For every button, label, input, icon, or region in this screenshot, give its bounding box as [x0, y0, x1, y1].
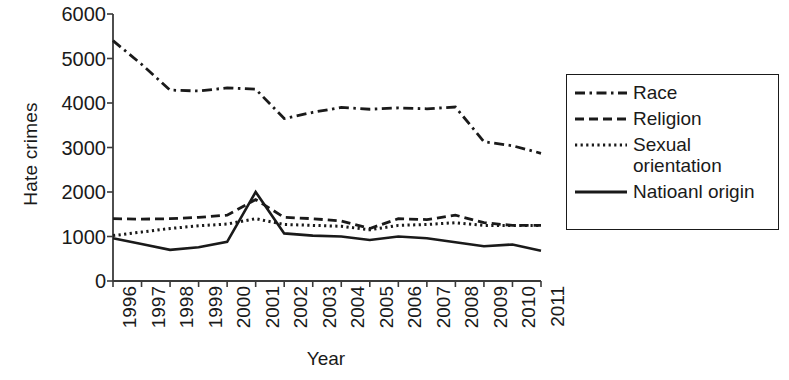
legend-item: Sexual orientation: [575, 134, 772, 176]
legend-item: Race: [575, 82, 772, 103]
legend-label: Sexual orientation: [633, 134, 722, 176]
legend-swatch-dashdot: [575, 82, 627, 103]
y-tick-label: 5000: [42, 49, 106, 69]
legend-label: Religion: [633, 108, 702, 129]
x-tick-label: 2006: [405, 286, 424, 328]
y-axis-tick-labels: 0100020003000400050006000: [40, 0, 106, 380]
x-tick-label: 2004: [348, 286, 367, 328]
legend-label: Natioanl origin: [633, 181, 754, 202]
chart-figure: Hate crimes 0100020003000400050006000 19…: [0, 0, 789, 380]
series-line-religion: [113, 200, 541, 229]
axis-lines: [113, 14, 541, 281]
legend-swatch-solid: [575, 181, 627, 202]
y-tick-label: 1000: [42, 227, 106, 247]
x-tick-label: 1998: [177, 286, 196, 328]
x-tick-label: 2003: [320, 286, 339, 328]
x-tick-label: 1997: [149, 286, 168, 328]
legend-item: Natioanl origin: [575, 181, 772, 202]
x-tick-label: 1996: [120, 286, 139, 328]
legend-swatch-dotted: [575, 134, 627, 155]
x-tick-label: 2001: [263, 286, 282, 328]
series-line-sexual-orientation: [113, 219, 541, 236]
x-tick-label: 2010: [519, 286, 538, 328]
series-line-race: [113, 41, 541, 154]
legend-swatch-dashed: [575, 108, 627, 129]
y-axis-title: Hate crimes: [20, 79, 42, 229]
y-tick-label: 6000: [42, 4, 106, 24]
y-tick-label: 3000: [42, 138, 106, 158]
x-tick-label: 2000: [234, 286, 253, 328]
series-canvas: [106, 14, 546, 284]
x-axis-title: Year: [106, 348, 546, 370]
x-tick-label: 2011: [548, 286, 567, 327]
x-tick-label: 2002: [291, 286, 310, 328]
x-tick-label: 2008: [462, 286, 481, 328]
legend: RaceReligionSexual orientationNatioanl o…: [566, 74, 779, 230]
x-axis-tick-labels: 1996199719981999200020012002200320042005…: [106, 286, 546, 348]
x-tick-label: 1999: [206, 286, 225, 328]
x-tick-label: 2007: [434, 286, 453, 328]
legend-item: Religion: [575, 108, 772, 129]
x-tick-label: 2005: [377, 286, 396, 328]
y-tick-label: 4000: [42, 93, 106, 113]
legend-label: Race: [633, 82, 677, 103]
y-tick-label: 0: [42, 271, 106, 291]
series-line-natioanl-origin: [113, 192, 541, 251]
y-tick-label: 2000: [42, 182, 106, 202]
x-tick-label: 2009: [491, 286, 510, 328]
plot-area: [106, 14, 546, 284]
